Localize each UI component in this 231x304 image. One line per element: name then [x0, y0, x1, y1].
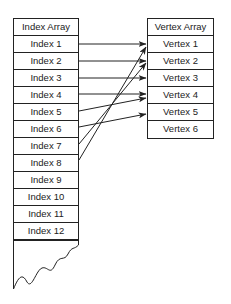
- connection-arrows: [0, 0, 231, 304]
- arrow-index6-vertex5: [79, 114, 146, 127]
- wavy-break-edge: [14, 245, 79, 289]
- index-array-continuation: [14, 237, 79, 289]
- arrow-index8-vertex1: [79, 47, 146, 160]
- arrow-index5-vertex4: [79, 98, 146, 111]
